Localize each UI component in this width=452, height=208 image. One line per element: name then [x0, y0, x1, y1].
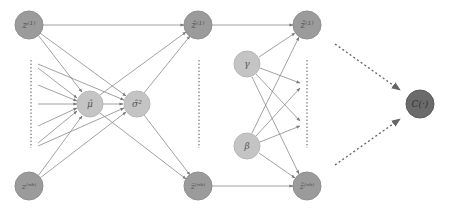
edge-gamma-ztilde1 [259, 33, 295, 57]
edge-z1-sigma [40, 33, 126, 96]
edge-gamma-mid2 [256, 74, 300, 121]
node-beta [234, 133, 260, 159]
nodes [15, 11, 434, 200]
edge-mu-zhat1 [100, 32, 186, 95]
node-z-1 [15, 11, 43, 39]
edge-beta-ztilde1 [252, 37, 299, 133]
cost-edges [335, 44, 400, 165]
node-z-hat-nb [184, 172, 212, 200]
edge-z1-mu [38, 35, 82, 92]
node-z-hat-1 [184, 11, 212, 39]
edge-mu-zhatnb [100, 113, 186, 179]
edge-ztilde1-cost [335, 44, 400, 90]
edge-znb-sigma [40, 112, 126, 178]
edge-sigma-zhat1 [144, 36, 190, 93]
edge-beta-ztildenb [259, 153, 295, 178]
edge-sigma-zhatnb [144, 115, 190, 175]
edge-gamma-ztildenb [252, 77, 299, 174]
batchnorm-graph [0, 0, 452, 208]
node-sigma-hat-sq [124, 91, 150, 117]
node-z-nb [15, 172, 43, 200]
node-gamma [234, 51, 260, 77]
node-z-tilde-nb [293, 172, 321, 200]
node-mu-hat [77, 91, 103, 117]
edge-in-mu-5 [38, 111, 77, 143]
edge-in-mu-4 [38, 108, 77, 126]
node-cost [406, 90, 434, 118]
edge-beta-mid2 [260, 126, 300, 142]
edge-ztildenb-cost [335, 119, 400, 165]
node-z-tilde-1 [293, 11, 321, 39]
